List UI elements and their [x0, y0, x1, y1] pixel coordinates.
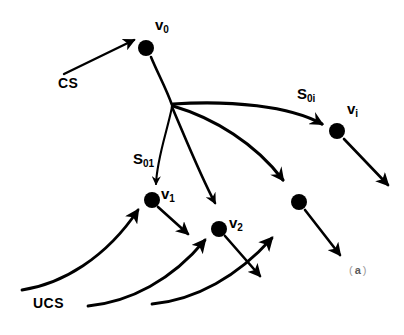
node-label-v1-sub: 1 — [169, 193, 175, 204]
edge-label-s01-base: S — [133, 150, 143, 167]
node-v1[interactable] — [144, 192, 160, 208]
node-label-v0-sub: 0 — [163, 24, 169, 35]
node-label-v0: v0 — [155, 17, 169, 32]
arrow-v1-output — [158, 207, 188, 234]
node-v0[interactable] — [138, 40, 154, 56]
edge-label-s0i-base: S — [297, 85, 307, 102]
edge-ucs-to-v1 — [22, 210, 138, 290]
edge-label-s01-sub: 01 — [143, 158, 154, 169]
node-label-vi-sub: i — [355, 108, 358, 119]
label-ucs: UCS — [33, 296, 64, 310]
node-label-v1: v1 — [161, 186, 175, 201]
label-cs: CS — [58, 76, 78, 90]
diagram-svg — [0, 0, 404, 335]
node-label-vi: vi — [347, 101, 358, 116]
node-v2[interactable] — [211, 221, 227, 237]
arrow-vi-output — [344, 139, 388, 185]
edge-label-s0i: S0i — [297, 86, 315, 101]
node-vn[interactable] — [291, 194, 307, 210]
node-label-v2-sub: 2 — [237, 222, 243, 233]
node-label-v2: v2 — [229, 215, 243, 230]
node-vi[interactable] — [329, 123, 345, 139]
edge-hub-to-vn — [173, 106, 283, 180]
caption-letter: a — [355, 264, 363, 276]
edge-label-s01: S01 — [133, 151, 154, 166]
figure-caption: (a) — [349, 265, 368, 276]
edge-label-s0i-sub: 0i — [307, 93, 315, 104]
figure-canvas: v0 vi v1 v2 S0i S01 CS UCS (a) — [0, 0, 404, 335]
caption-close-paren: ) — [363, 264, 369, 276]
edge-v0-to-hub — [151, 57, 172, 105]
edge-hub-to-v1 — [156, 107, 172, 184]
edge-cs-to-v0 — [64, 40, 134, 74]
arrow-vn-output — [305, 210, 340, 255]
